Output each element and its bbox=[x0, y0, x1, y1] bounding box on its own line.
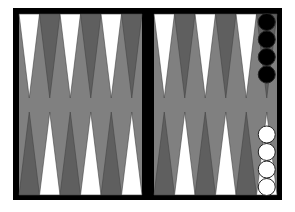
checker-white[interactable] bbox=[258, 161, 275, 178]
checker-white[interactable] bbox=[258, 144, 275, 161]
checker-black[interactable] bbox=[258, 49, 275, 66]
checker-black[interactable] bbox=[258, 31, 275, 48]
board-graphics bbox=[0, 0, 295, 212]
checker-black[interactable] bbox=[258, 66, 275, 83]
checker-white[interactable] bbox=[258, 126, 275, 143]
checker-black[interactable] bbox=[258, 14, 275, 31]
left-half bbox=[19, 14, 142, 195]
checker-white[interactable] bbox=[258, 179, 275, 196]
